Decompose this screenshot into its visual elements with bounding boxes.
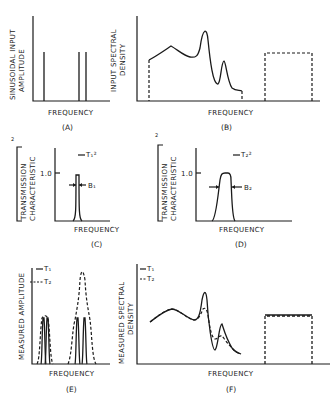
panel-b-spectrum: [149, 31, 242, 91]
panel-f-ylabel-2: DENSITY: [127, 302, 135, 335]
panel-b-block: [265, 53, 312, 101]
panel-b: INPUT SPECTRAL DENSITY FREQUENCY (B): [110, 16, 320, 132]
panel-b-ylabel-2: DENSITY: [119, 43, 127, 76]
panel-a: SINUSOIDAL INPUT AMPLITUDE FREQUENCY (A): [9, 16, 110, 132]
panel-c-curve: [73, 175, 82, 221]
panel-b-ylabel-1: INPUT SPECTRAL: [110, 29, 118, 92]
panel-b-xlabel: FREQUENCY: [208, 109, 254, 117]
panel-d-ylabel-2: CHARACTERISTIC: [170, 156, 178, 221]
panel-c-caption: (C): [91, 240, 102, 249]
panel-f-block: [265, 316, 312, 364]
panel-c-tick: 1.0: [40, 170, 52, 178]
panel-a-ylabel-1: SINUSOIDAL INPUT: [9, 29, 17, 100]
panel-e-caption: (E): [66, 385, 77, 394]
panel-e: MEASURED AMPLITUDE T₁ T₂ FREQUENCY (E): [18, 265, 110, 394]
panel-f-t1-curve: [150, 293, 241, 355]
svg-text:T₁: T₁: [146, 265, 155, 273]
panel-c-ylabel-1: TRANSMISSION: [20, 163, 28, 221]
panel-d-curve: [212, 173, 235, 221]
figure-canvas: SINUSOIDAL INPUT AMPLITUDE FREQUENCY (A)…: [0, 0, 333, 405]
panel-b-caption: (B): [221, 123, 232, 132]
panel-b-axes: [137, 16, 320, 101]
svg-text:2: 2: [11, 136, 14, 142]
panel-d: 2 TRANSMISSION CHARACTERISTIC 1.0 T₂² B₂…: [155, 132, 292, 249]
panel-d-tick: 1.0: [181, 170, 193, 178]
panel-e-dashed-right: [68, 272, 96, 364]
panel-d-ylabel-1: TRANSMISSION: [161, 163, 169, 221]
panel-c-legend: T₁²: [85, 151, 97, 159]
panel-f: MEASURED SPECTRAL DENSITY T₁ T₂ FREQUENC…: [118, 264, 330, 394]
panel-d-caption: (D): [235, 240, 247, 249]
panel-d-legend: T₂²: [240, 151, 252, 159]
panel-d-xlabel: FREQUENCY: [219, 226, 265, 234]
panel-c: 2 TRANSMISSION CHARACTERISTIC 1.0 T₁² B₁…: [11, 136, 120, 249]
panel-a-caption: (A): [62, 123, 73, 132]
panel-c-bandwidth: B₁: [88, 182, 96, 190]
svg-text:T₁: T₁: [43, 265, 52, 273]
panel-d-bandwidth: B₂: [244, 184, 252, 192]
panel-a-xlabel: FREQUENCY: [48, 109, 94, 117]
panel-f-ylabel-1: MEASURED SPECTRAL: [118, 282, 126, 364]
panel-c-xlabel: FREQUENCY: [74, 226, 120, 234]
svg-text:2: 2: [155, 132, 158, 138]
panel-e-xlabel: FREQUENCY: [49, 370, 95, 378]
panel-c-ylabel-2: CHARACTERISTIC: [29, 156, 37, 221]
panel-f-t2-curve: [150, 308, 241, 354]
panel-f-xlabel: FREQUENCY: [208, 370, 254, 378]
svg-text:T₂: T₂: [43, 278, 52, 286]
panel-f-caption: (F): [226, 385, 236, 394]
panel-a-ylabel-2: AMPLITUDE: [18, 49, 26, 92]
panel-e-ylabel: MEASURED AMPLITUDE: [18, 273, 26, 360]
svg-text:T₂: T₂: [146, 275, 155, 283]
